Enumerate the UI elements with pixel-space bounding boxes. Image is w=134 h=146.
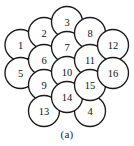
circle-label-4: 4: [87, 106, 93, 117]
circle-label-9: 9: [41, 80, 46, 91]
circle-label-7: 7: [64, 42, 69, 53]
circle-label-13: 13: [39, 106, 50, 117]
circle-label-11: 11: [85, 55, 95, 66]
circle-label-8: 8: [87, 28, 92, 39]
circle-label-16: 16: [108, 68, 119, 79]
circle-label-6: 6: [41, 55, 46, 66]
circle-label-3: 3: [64, 17, 69, 28]
figure-caption: (a): [0, 127, 134, 141]
circle-label-15: 15: [85, 80, 96, 91]
circle-label-2: 2: [41, 28, 46, 39]
circle-label-1: 1: [18, 40, 23, 51]
circle-label-14: 14: [62, 92, 73, 103]
circle-label-5: 5: [18, 68, 23, 79]
circle-packing-diagram: 12345678910111213141516: [0, 0, 134, 146]
circle-packing-figure: 12345678910111213141516 (a): [0, 0, 134, 146]
circle-label-12: 12: [108, 40, 119, 51]
circle-label-10: 10: [62, 67, 73, 78]
